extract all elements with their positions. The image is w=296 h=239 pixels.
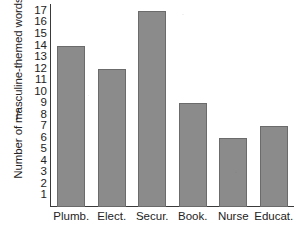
frequency-symbol: f [16,106,19,121]
bar [179,103,207,207]
bar [138,11,166,207]
bar [57,46,85,207]
plot-area [51,4,294,207]
bar [98,69,126,207]
x-axis-tick-labels: Plumb.Elect.Secur.Book.NurseEducat. [51,209,294,229]
bar [260,126,288,207]
bar-chart: Number of masculine-themed words f 17161… [0,0,295,239]
y-axis-tick-label: 1 [26,190,47,202]
bar [219,138,247,207]
y-axis-tick-labels: 1716151413121110987654321 [26,0,47,210]
x-axis-tick-label: Educat. [251,209,296,223]
